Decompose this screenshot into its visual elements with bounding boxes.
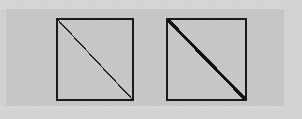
- figure-drawing: [0, 0, 302, 119]
- right-panel: [167, 19, 246, 100]
- left-panel: [57, 19, 133, 100]
- figure-canvas: [0, 0, 302, 119]
- left-square-diagonal: [58, 20, 132, 99]
- right-square-diagonal: [168, 20, 245, 99]
